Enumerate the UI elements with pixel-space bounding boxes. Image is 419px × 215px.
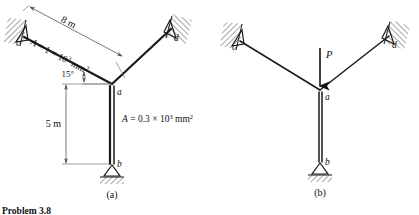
dim-ext-c bbox=[23, 5, 29, 11]
figure-svg: 8 m A = 1 × 103 mm2 15° 5 m bbox=[0, 0, 419, 215]
area-label-ca: A = 1 × 103 mm2 bbox=[28, 35, 91, 76]
load-label: P bbox=[325, 49, 333, 60]
panel-a-label: (a) bbox=[106, 189, 117, 201]
node-label-b-b: b bbox=[325, 157, 330, 167]
node-label-a-a: a bbox=[117, 87, 122, 97]
dimension-height-5m: 5 m bbox=[46, 84, 110, 164]
area-ab-unit-exp: 2 bbox=[190, 113, 193, 120]
area-ab-eq: = 0.3 × 10 bbox=[128, 114, 170, 124]
member-ad bbox=[112, 29, 171, 84]
figure-problem-3-8: 8 m A = 1 × 103 mm2 15° 5 m bbox=[0, 0, 419, 215]
panel-b-label: (b) bbox=[314, 187, 326, 199]
figure-caption: Problem 3.8 bbox=[2, 206, 51, 215]
area-ca-eq: = 1 × 10 bbox=[34, 40, 69, 65]
member-ad-b bbox=[320, 36, 389, 90]
svg-text:A = 1 × 103 mm2: A = 1 × 103 mm2 bbox=[28, 35, 91, 76]
node-label-b-a: b bbox=[117, 159, 122, 169]
support-b-ground-hatch-b bbox=[308, 175, 332, 182]
dim-label-span: 8 m bbox=[59, 13, 78, 30]
support-b-ground-hatch bbox=[100, 177, 124, 184]
node-label-d-a: d bbox=[174, 33, 179, 43]
panel-b: P c d a b (b) bbox=[220, 20, 410, 199]
area-ab-unit: mm bbox=[173, 114, 191, 124]
angle-label: 15° bbox=[61, 69, 74, 79]
dim-label-height: 5 m bbox=[46, 118, 62, 129]
node-label-a-b: a bbox=[325, 92, 330, 102]
load-P: P bbox=[320, 48, 333, 86]
panel-a: 8 m A = 1 × 103 mm2 15° 5 m bbox=[4, 5, 193, 201]
node-label-d-b: d bbox=[392, 40, 397, 50]
member-ca-b bbox=[240, 41, 320, 90]
support-d-hatch-b bbox=[384, 20, 410, 50]
area-label-ab: A = 0.3 × 103 mm2 bbox=[121, 113, 193, 125]
